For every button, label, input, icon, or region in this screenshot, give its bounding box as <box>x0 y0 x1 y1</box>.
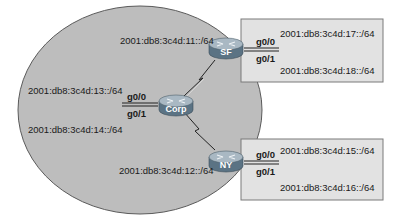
router-corp-icon[interactable]: Corp <box>159 95 193 116</box>
ny-g0-0-label: g0/0 <box>256 149 275 160</box>
diagram-canvas: Corp SF NY 2001:db8:3c4d:11::/64 2001:db… <box>0 0 404 222</box>
sf-g0-0-label: g0/0 <box>256 36 275 47</box>
router-corp-label: Corp <box>166 104 187 114</box>
ny-g0-0-subnet: 2001:db8:3c4d:15::/64 <box>280 145 375 156</box>
router-sf-icon[interactable]: SF <box>209 38 243 59</box>
corp-g0-1-subnet: 2001:db8:3c4d:14::/64 <box>28 124 123 135</box>
router-ny-icon[interactable]: NY <box>209 151 243 172</box>
corp-g0-1-label: g0/1 <box>127 108 147 119</box>
sf-g0-0-subnet: 2001:db8:3c4d:17::/64 <box>280 28 375 39</box>
router-ny-label: NY <box>220 160 233 170</box>
sf-g0-1-label: g0/1 <box>256 53 276 64</box>
corp-g0-0-subnet: 2001:db8:3c4d:13::/64 <box>28 85 123 96</box>
router-sf-label: SF <box>220 47 232 57</box>
serial-corp-ny-subnet: 2001:db8:3c4d:12::/64 <box>119 165 214 176</box>
ny-g0-1-label: g0/1 <box>256 166 276 177</box>
corp-g0-0-label: g0/0 <box>127 91 146 102</box>
sf-g0-1-subnet: 2001:db8:3c4d:18::/64 <box>280 65 375 76</box>
serial-corp-sf-subnet: 2001:db8:3c4d:11::/64 <box>120 35 214 46</box>
network-diagram: Corp SF NY 2001:db8:3c4d:11::/64 2001:db… <box>0 0 404 222</box>
ny-g0-1-subnet: 2001:db8:3c4d:16::/64 <box>280 182 375 193</box>
